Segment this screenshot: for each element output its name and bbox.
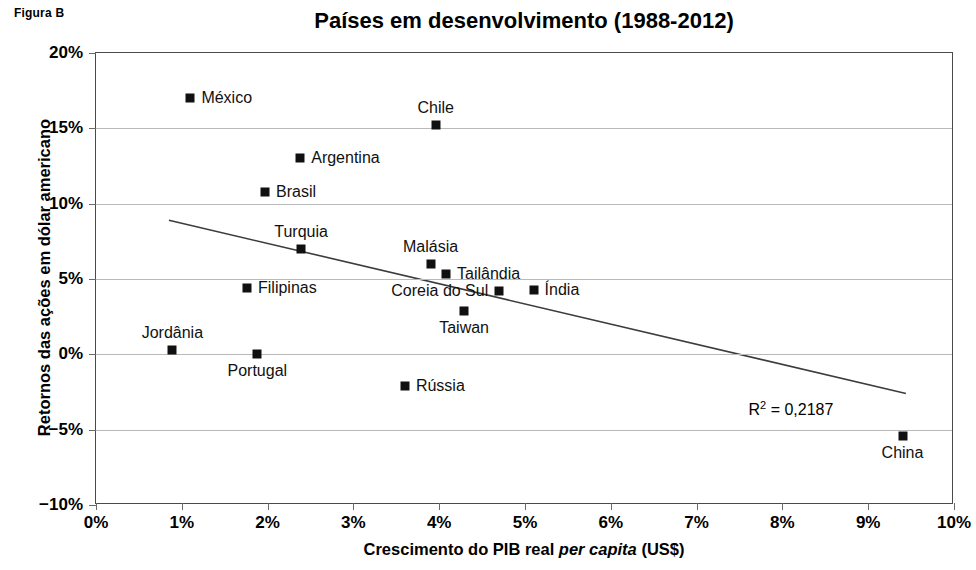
data-point-marker[interactable] — [495, 287, 504, 296]
x-axis-tick — [182, 503, 183, 510]
figure-label: Figura B — [14, 6, 64, 20]
x-axis-title: Crescimento do PIB real per capita (US$) — [95, 540, 953, 559]
y-axis-tick-label: 20% — [49, 43, 83, 63]
data-point-label: Chile — [418, 99, 454, 117]
data-point-label: Índia — [545, 281, 580, 299]
gridline-horizontal — [96, 354, 952, 355]
gridline-horizontal — [96, 279, 952, 280]
x-axis-tick-label: 5% — [513, 513, 538, 533]
x-axis-tick — [611, 503, 612, 510]
y-axis-tick — [89, 505, 96, 506]
y-axis-tick-label: 0% — [58, 344, 83, 364]
data-point-marker[interactable] — [243, 284, 252, 293]
y-axis-tick-label: −5% — [49, 420, 84, 440]
plot-area: R2 = 0,2187 20%15%10%5%0%−5%−10%0%1%2%3%… — [95, 52, 953, 504]
y-axis-tick-label: 10% — [49, 194, 83, 214]
data-point-label: China — [882, 444, 924, 462]
r-squared-value: = 0,2187 — [766, 401, 833, 418]
y-axis-tick — [89, 430, 96, 431]
x-axis-tick-label: 8% — [770, 513, 795, 533]
data-point-label: Jordânia — [142, 324, 203, 342]
y-axis-tick-label: 15% — [49, 118, 83, 138]
x-axis-tick-label: 2% — [255, 513, 280, 533]
chart-title: Países em desenvolvimento (1988-2012) — [95, 8, 953, 34]
x-axis-tick-label: 6% — [599, 513, 624, 533]
data-point-marker[interactable] — [431, 121, 440, 130]
x-axis-tick-label: 10% — [937, 513, 971, 533]
x-axis-title-italic: per capita — [559, 540, 637, 558]
y-axis-tick-label: 5% — [58, 269, 83, 289]
data-point-label: Taiwan — [439, 319, 489, 337]
data-point-label: Filipinas — [258, 279, 317, 297]
x-axis-tick-label: 3% — [341, 513, 366, 533]
x-axis-tick-label: 7% — [684, 513, 709, 533]
x-axis-tick — [697, 503, 698, 510]
y-axis-tick — [89, 128, 96, 129]
gridline-horizontal — [96, 204, 952, 205]
y-axis-tick — [89, 53, 96, 54]
x-axis-tick — [268, 503, 269, 510]
r-squared-annotation: R2 = 0,2187 — [749, 398, 834, 418]
data-point-marker[interactable] — [186, 94, 195, 103]
data-point-marker[interactable] — [261, 187, 270, 196]
data-point-marker[interactable] — [426, 259, 435, 268]
data-point-marker[interactable] — [898, 431, 907, 440]
data-point-label: Coreia do Sul — [391, 282, 488, 300]
data-point-marker[interactable] — [529, 285, 538, 294]
data-point-label: Portugal — [228, 362, 288, 380]
x-axis-tick — [782, 503, 783, 510]
r-squared-prefix: R — [749, 401, 761, 418]
gridline-horizontal — [96, 128, 952, 129]
data-point-label: Argentina — [311, 149, 380, 167]
x-axis-tick — [439, 503, 440, 510]
data-point-marker[interactable] — [460, 306, 469, 315]
data-point-marker[interactable] — [442, 270, 451, 279]
data-point-marker[interactable] — [253, 349, 262, 358]
data-point-label: Rússia — [416, 377, 465, 395]
data-point-label: México — [201, 89, 252, 107]
x-axis-title-prefix: Crescimento do PIB real — [364, 540, 559, 558]
y-axis-tick-label: −10% — [39, 495, 83, 515]
x-axis-tick — [353, 503, 354, 510]
y-axis-tick — [89, 204, 96, 205]
x-axis-tick — [954, 503, 955, 510]
x-axis-tick — [96, 503, 97, 510]
y-axis-tick — [89, 279, 96, 280]
figure-container: Figura B Países em desenvolvimento (1988… — [0, 0, 976, 570]
data-point-marker[interactable] — [296, 154, 305, 163]
data-point-label: Turquia — [274, 223, 328, 241]
gridline-horizontal — [96, 430, 952, 431]
x-axis-tick-label: 0% — [84, 513, 109, 533]
x-axis-tick-label: 4% — [427, 513, 452, 533]
data-point-marker[interactable] — [297, 244, 306, 253]
x-axis-tick-label: 9% — [856, 513, 881, 533]
data-point-label: Malásia — [403, 238, 458, 256]
data-point-label: Brasil — [276, 183, 316, 201]
y-axis-tick — [89, 354, 96, 355]
data-point-label: Tailândia — [457, 265, 520, 283]
x-axis-tick-label: 1% — [170, 513, 195, 533]
x-axis-tick — [525, 503, 526, 510]
x-axis-tick — [868, 503, 869, 510]
x-axis-title-suffix: (US$) — [637, 540, 685, 558]
data-point-marker[interactable] — [400, 381, 409, 390]
data-point-marker[interactable] — [168, 345, 177, 354]
